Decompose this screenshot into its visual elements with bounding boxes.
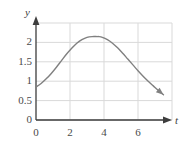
axes bbox=[33, 16, 172, 123]
x-tick-label: 6 bbox=[128, 127, 148, 138]
y-tick-label: 0.5 bbox=[18, 95, 32, 106]
y-axis-arrowhead bbox=[33, 16, 40, 25]
x-tick-label: 0 bbox=[26, 127, 46, 138]
x-tick-label: 4 bbox=[94, 127, 114, 138]
data-curve-group bbox=[36, 37, 164, 95]
x-axis-label: t bbox=[175, 115, 178, 126]
y-axis-label: y bbox=[25, 7, 30, 18]
data-curve bbox=[36, 37, 164, 95]
y-tick-label: 2 bbox=[27, 36, 33, 47]
x-axis-arrowhead bbox=[163, 117, 172, 124]
y-tick-label: 1 bbox=[27, 75, 33, 86]
x-tick-label: 2 bbox=[60, 127, 80, 138]
y-tick-label: 0 bbox=[27, 114, 33, 125]
y-tick-label: 1.5 bbox=[18, 56, 32, 67]
chart-figure: 00.511.52 0246 y t bbox=[0, 0, 184, 147]
